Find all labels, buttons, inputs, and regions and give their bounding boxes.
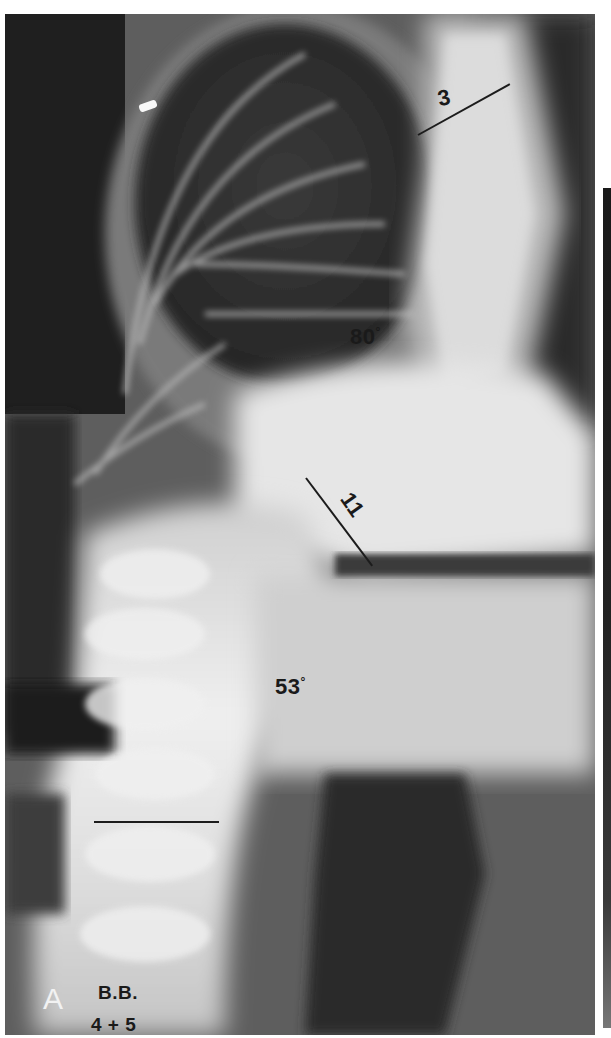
cobb-angle-upper-value: 80: [350, 324, 375, 349]
endplate-line-lower: [94, 821, 219, 823]
patient-age: 4 + 5: [91, 1014, 136, 1035]
spine-radiograph-image: [5, 14, 595, 1035]
degree-symbol: °: [300, 675, 305, 689]
adjacent-panel-edge: [603, 188, 611, 1028]
cobb-angle-lower: 53°: [275, 674, 306, 700]
panel-label: A: [43, 982, 64, 1016]
radiograph: 3 80° 11 53° A B.B. 4 + 5: [5, 14, 595, 1035]
cobb-angle-upper: 80°: [350, 324, 381, 350]
patient-initials: B.B.: [98, 982, 138, 1004]
degree-symbol: °: [375, 325, 380, 339]
cobb-angle-lower-value: 53: [275, 674, 300, 699]
